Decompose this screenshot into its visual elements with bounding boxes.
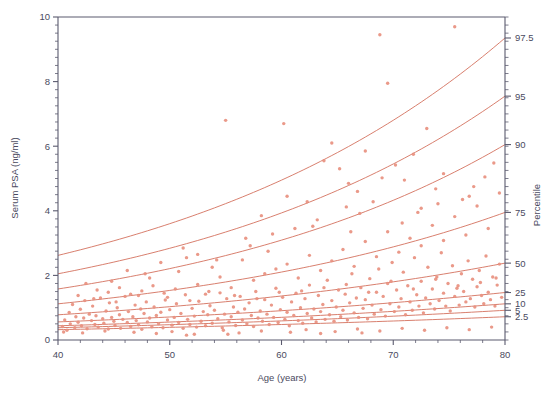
scatter-point	[84, 282, 87, 285]
scatter-point	[413, 256, 416, 259]
scatter-point	[403, 178, 406, 181]
scatter-point	[69, 322, 72, 325]
scatter-point	[270, 303, 273, 306]
scatter-point	[297, 319, 300, 322]
scatter-point	[400, 221, 403, 224]
scatter-point	[475, 204, 478, 207]
y-tick-label: 8	[45, 76, 50, 87]
scatter-point	[197, 300, 200, 303]
scatter-point	[498, 262, 501, 265]
scatter-point	[350, 272, 353, 275]
scatter-point	[112, 320, 115, 323]
scatter-point	[306, 200, 309, 203]
scatter-point	[232, 305, 235, 308]
scatter-point	[359, 286, 362, 289]
y2-tick-label: 25	[515, 287, 526, 298]
scatter-point	[355, 296, 358, 299]
scatter-point	[304, 328, 307, 331]
scatter-point	[126, 321, 129, 324]
scatter-point	[388, 302, 391, 305]
scatter-point	[308, 283, 311, 286]
scatter-point	[175, 302, 178, 305]
scatter-point	[140, 328, 143, 331]
scatter-point	[433, 307, 436, 310]
x-tick-label: 70	[388, 349, 399, 360]
scatter-point	[170, 330, 173, 333]
scatter-point	[116, 306, 119, 309]
scatter-point	[143, 272, 146, 275]
scatter-point	[352, 311, 355, 314]
scatter-point	[389, 280, 392, 283]
scatter-point	[249, 244, 252, 247]
scatter-point	[238, 295, 241, 298]
scatter-point	[314, 320, 317, 323]
scatter-point	[93, 323, 96, 326]
scatter-point	[417, 304, 420, 307]
scatter-point	[274, 267, 277, 270]
scatter-point	[73, 326, 76, 329]
scatter-point	[290, 300, 293, 303]
scatter-point	[478, 269, 481, 272]
scatter-point	[428, 302, 431, 305]
scatter-point	[378, 329, 381, 332]
scatter-point	[399, 297, 402, 300]
scatter-point	[464, 300, 467, 303]
scatter-point	[394, 163, 397, 166]
scatter-point	[368, 277, 371, 280]
scatter-point	[132, 331, 135, 334]
scatter-point	[206, 313, 209, 316]
scatter-point	[379, 308, 382, 311]
scatter-point	[103, 329, 106, 332]
scatter-point	[233, 294, 236, 297]
scatter-point	[113, 324, 116, 327]
scatter-point	[487, 291, 490, 294]
scatter-point	[150, 325, 153, 328]
scatter-point	[444, 304, 447, 307]
scatter-point	[487, 227, 490, 230]
scatter-point	[265, 312, 268, 315]
x-tick-label: 50	[164, 349, 175, 360]
scatter-point	[61, 325, 64, 328]
scatter-point	[411, 309, 414, 312]
scatter-point	[297, 276, 300, 279]
x-tick-label: 40	[53, 349, 64, 360]
scatter-point	[199, 320, 202, 323]
scatter-point	[384, 314, 387, 317]
scatter-point	[85, 327, 88, 330]
scatter-point	[453, 25, 456, 28]
scatter-point	[442, 172, 445, 175]
y2-tick-label: 75	[515, 207, 526, 218]
scatter-point	[375, 255, 378, 258]
scatter-point	[222, 329, 225, 332]
scatter-point	[241, 318, 244, 321]
scatter-point	[193, 314, 196, 317]
scatter-point	[216, 317, 219, 320]
scatter-point	[408, 237, 411, 240]
scatter-point	[456, 284, 459, 287]
scatter-point	[196, 253, 199, 256]
scatter-point	[129, 292, 132, 295]
scatter-point	[142, 312, 145, 315]
scatter-point	[453, 295, 456, 298]
scatter-point	[114, 300, 117, 303]
scatter-point	[145, 300, 148, 303]
scatter-point	[492, 161, 495, 164]
scatter-point	[371, 200, 374, 203]
scatter-point	[190, 307, 193, 310]
scatter-point	[493, 304, 496, 307]
scatter-point	[292, 314, 295, 317]
scatter-point	[330, 141, 333, 144]
scatter-point	[104, 309, 107, 312]
scatter-point	[498, 191, 501, 194]
scatter-point	[252, 325, 255, 328]
y2-tick-label: 95	[515, 91, 526, 102]
scatter-point	[322, 159, 325, 162]
scatter-point	[126, 269, 129, 272]
scatter-point	[319, 332, 322, 335]
scatter-point	[166, 296, 169, 299]
scatter-point	[419, 207, 422, 210]
scatter-point	[330, 299, 333, 302]
scatter-point	[83, 299, 86, 302]
scatter-point	[462, 290, 465, 293]
scatter-point	[88, 312, 91, 315]
